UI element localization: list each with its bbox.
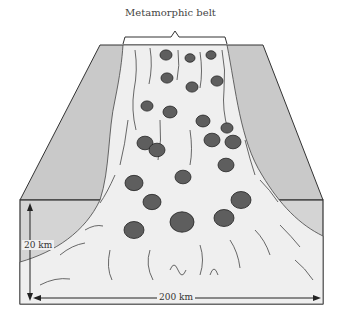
belt-brace [123,31,227,44]
pluton [218,158,234,172]
pluton [141,101,153,111]
block-diagram [0,0,341,321]
pluton [186,82,198,92]
pluton [211,76,223,86]
pluton [231,192,251,209]
pluton [163,106,177,118]
pluton [185,54,195,63]
pluton [161,73,173,83]
pluton [214,210,234,227]
pluton [143,194,161,209]
pluton [124,222,144,239]
pluton [221,123,233,133]
pluton [175,170,191,184]
diagram-title: Metamorphic belt [0,7,341,18]
depth-label: 20 km [22,240,54,250]
pluton [149,143,165,157]
width-label: 200 km [157,292,195,302]
pluton [125,175,143,190]
pluton [204,133,220,147]
pluton [170,212,194,232]
pluton [225,135,241,149]
pluton [196,115,210,127]
pluton [160,50,172,60]
pluton [206,51,216,60]
